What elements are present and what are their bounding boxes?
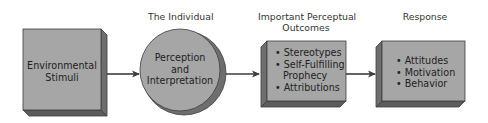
- outcomes-item-attributions: • Attributions: [275, 82, 345, 94]
- stimuli-label-line2: Stimuli: [23, 72, 101, 84]
- response-item-motivation: • Motivation: [396, 67, 455, 79]
- outcomes-list: • Stereotypes • Self-Fulfilling Prophecy…: [275, 47, 345, 94]
- perception-process-diagram: The Individual Important Perceptual Outc…: [0, 0, 488, 123]
- perception-label: Perception and Interpretation: [142, 52, 218, 87]
- stimuli-side-face: [101, 29, 107, 116]
- outcomes-side-face: [261, 41, 267, 107]
- response-bottom-face: [376, 101, 465, 107]
- header-individual: The Individual: [148, 11, 212, 22]
- stimuli-bottom-face: [23, 110, 107, 116]
- outcomes-item-stereotypes: • Stereotypes: [275, 47, 345, 59]
- perception-label-line1: Perception: [142, 52, 218, 64]
- perception-label-line3: Interpretation: [142, 75, 218, 87]
- header-outcomes-line1: Important Perceptual: [258, 11, 354, 22]
- outcomes-item-self-fulfilling: • Self-Fulfilling: [275, 59, 345, 71]
- response-item-attitudes: • Attitudes: [396, 55, 455, 67]
- stimuli-label: Environmental Stimuli: [23, 60, 101, 83]
- header-outcomes: Important Perceptual Outcomes: [258, 11, 354, 34]
- response-side-face: [376, 41, 382, 107]
- header-response: Response: [395, 11, 455, 22]
- stimuli-label-line1: Environmental: [23, 60, 101, 72]
- outcomes-item-prophecy: Prophecy: [275, 70, 345, 82]
- perception-label-line2: and: [142, 64, 218, 76]
- response-item-behavior: • Behavior: [396, 78, 455, 90]
- header-outcomes-line2: Outcomes: [258, 22, 354, 33]
- outcomes-bottom-face: [261, 101, 346, 107]
- response-list: • Attitudes • Motivation • Behavior: [396, 55, 455, 90]
